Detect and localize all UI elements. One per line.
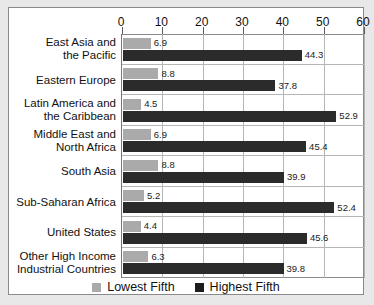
bar-value-highest-fifth: 44.3 (305, 50, 324, 60)
category-label: United States (47, 226, 116, 239)
bar-value-highest-fifth: 39.9 (287, 172, 306, 182)
category-label-line1: Sub-Saharan Africa (16, 195, 116, 208)
category-label: Eastern Europe (36, 73, 116, 86)
category-label: Other High IncomeIndustrial Countries (17, 250, 116, 276)
bar-lowest-fifth (123, 160, 158, 171)
x-tick-label-10: 10 (155, 16, 168, 29)
bar-value-lowest-fifth: 8.8 (161, 160, 174, 170)
category-label: Latin America andthe Caribbean (24, 97, 116, 123)
x-tick-label-30: 30 (235, 16, 248, 29)
bar-value-highest-fifth: 45.4 (309, 142, 328, 152)
bar-lowest-fifth (123, 221, 141, 232)
bar-highest-fifth (123, 172, 284, 183)
legend-swatch-icon (195, 283, 204, 292)
bar-value-lowest-fifth: 4.4 (144, 221, 157, 231)
chart-row: Other High IncomeIndustrial Countries6.3… (122, 248, 364, 279)
bar-highest-fifth (123, 141, 306, 152)
category-label: East Asia andthe Pacific (46, 36, 116, 62)
chart-row: Sub-Saharan Africa5.252.4 (122, 187, 364, 218)
x-tick-label-0: 0 (118, 16, 125, 29)
category-label: Middle East andNorth Africa (34, 128, 116, 154)
x-tick-mark-30 (243, 27, 244, 34)
bar-lowest-fifth (123, 99, 141, 110)
x-tick-label-60: 60 (356, 16, 369, 29)
x-tick-label-50: 50 (316, 16, 329, 29)
legend-item-highest-fifth: Highest Fifth (195, 280, 280, 294)
category-label-line1: East Asia and (46, 36, 116, 49)
bar-value-highest-fifth: 45.6 (310, 233, 329, 243)
chart-figure: 0102030405060 East Asia andthe Pacific6.… (8, 7, 364, 295)
bar-value-lowest-fifth: 5.2 (147, 191, 160, 201)
gridline-60 (364, 34, 365, 278)
bar-highest-fifth (123, 263, 284, 274)
bar-value-highest-fifth: 39.8 (287, 264, 306, 274)
bar-value-lowest-fifth: 8.8 (161, 69, 174, 79)
bar-highest-fifth (123, 111, 336, 122)
chart-plot-wrapper: 0102030405060 East Asia andthe Pacific6.… (9, 8, 363, 294)
category-label-line1: Eastern Europe (36, 73, 116, 86)
category-label-line2: the Caribbean (24, 110, 116, 123)
bar-value-lowest-fifth: 4.5 (144, 99, 157, 109)
bar-lowest-fifth (123, 38, 151, 49)
chart-row: South Asia8.839.9 (122, 156, 364, 187)
bar-highest-fifth (123, 80, 275, 91)
category-label-line1: South Asia (61, 165, 116, 178)
category-label-line2: the Pacific (46, 49, 116, 62)
bar-highest-fifth (123, 233, 307, 244)
chart-legend: Lowest FifthHighest Fifth (9, 280, 363, 294)
category-label-line1: Other High Income (17, 250, 116, 263)
chart-row: United States4.445.6 (122, 217, 364, 248)
x-tick-mark-50 (324, 27, 325, 34)
x-tick-label-20: 20 (195, 16, 208, 29)
bar-value-highest-fifth: 37.8 (278, 81, 297, 91)
x-tick-mark-20 (203, 27, 204, 34)
bar-lowest-fifth (123, 68, 158, 79)
x-tick-label-40: 40 (276, 16, 289, 29)
chart-row: Latin America andthe Caribbean4.552.9 (122, 95, 364, 126)
bar-lowest-fifth (123, 251, 148, 262)
bar-lowest-fifth (123, 190, 144, 201)
plot-area: East Asia andthe Pacific6.944.3Eastern E… (121, 34, 365, 278)
bar-value-lowest-fifth: 6.3 (151, 252, 164, 262)
category-label-line2: Industrial Countries (17, 263, 116, 276)
chart-row: Middle East andNorth Africa6.945.4 (122, 126, 364, 157)
legend-label: Lowest Fifth (107, 280, 174, 294)
legend-item-lowest-fifth: Lowest Fifth (92, 280, 174, 294)
bar-value-lowest-fifth: 6.9 (154, 130, 167, 140)
bar-lowest-fifth (123, 129, 151, 140)
x-tick-mark-10 (162, 27, 163, 34)
bar-value-lowest-fifth: 6.9 (154, 38, 167, 48)
bar-value-highest-fifth: 52.9 (339, 111, 358, 121)
x-tick-mark-40 (283, 27, 284, 34)
legend-label: Highest Fifth (210, 280, 280, 294)
category-label: South Asia (61, 165, 116, 178)
chart-row: East Asia andthe Pacific6.944.3 (122, 34, 364, 65)
chart-row: Eastern Europe8.837.8 (122, 65, 364, 96)
x-tick-mark-60 (364, 27, 365, 34)
x-tick-mark-0 (122, 27, 123, 34)
legend-swatch-icon (92, 283, 101, 292)
bar-highest-fifth (123, 202, 334, 213)
bar-highest-fifth (123, 50, 302, 61)
bar-value-highest-fifth: 52.4 (337, 203, 356, 213)
category-label: Sub-Saharan Africa (16, 195, 116, 208)
category-label-line1: Middle East and (34, 128, 116, 141)
category-label-line1: United States (47, 226, 116, 239)
category-label-line1: Latin America and (24, 97, 116, 110)
category-label-line2: North Africa (34, 141, 116, 154)
